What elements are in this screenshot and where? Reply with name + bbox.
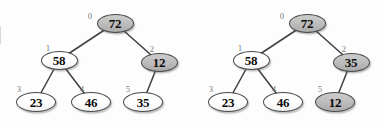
figure-canvas: 720581122233464355 720581352233464125	[0, 0, 384, 128]
tree-node-index-label-0: 0	[280, 13, 284, 21]
tree-node-index-label-3: 3	[17, 86, 21, 94]
tree-node-value: 58	[245, 53, 258, 66]
tree-node-value: 12	[153, 55, 166, 68]
tree-node-5[interactable]: 12	[315, 92, 355, 112]
tree-node-value: 46	[85, 95, 98, 108]
binary-tree-after: 720581352233464125	[192, 0, 384, 128]
tree-node-value: 23	[30, 95, 43, 108]
tree-node-value: 12	[329, 95, 342, 108]
binary-tree-before: 720581122233464355	[0, 0, 192, 128]
tree-node-index-label-4: 4	[272, 86, 276, 94]
tree-node-1[interactable]: 58	[233, 51, 270, 70]
tree-node-value: 46	[277, 95, 290, 108]
tree-node-1[interactable]: 58	[41, 51, 78, 70]
tree-node-index-label-2: 2	[150, 46, 154, 54]
tree-node-0[interactable]: 72	[97, 14, 134, 33]
tree-node-index-label-5: 5	[318, 86, 322, 94]
tree-node-index-label-1: 1	[46, 45, 50, 53]
tree-node-2[interactable]: 35	[333, 53, 370, 72]
tree-node-index-label-1: 1	[238, 45, 242, 53]
tree-node-value: 23	[222, 95, 235, 108]
tree-node-5[interactable]: 35	[123, 92, 163, 112]
tree-node-value: 72	[301, 16, 314, 29]
tree-node-value: 72	[109, 16, 122, 29]
tree-node-index-label-2: 2	[342, 46, 346, 54]
tree-node-4[interactable]: 46	[71, 92, 111, 112]
tree-node-3[interactable]: 23	[16, 92, 56, 112]
tree-node-3[interactable]: 23	[208, 92, 248, 112]
tree-node-value: 58	[53, 53, 66, 66]
tree-node-index-label-4: 4	[80, 86, 84, 94]
tree-node-index-label-3: 3	[209, 86, 213, 94]
tree-node-2[interactable]: 12	[141, 53, 178, 72]
tree-node-value: 35	[345, 55, 358, 68]
tree-node-index-label-5: 5	[126, 86, 130, 94]
tree-node-0[interactable]: 72	[289, 14, 326, 33]
tree-node-index-label-0: 0	[88, 13, 92, 21]
tree-node-value: 35	[137, 95, 150, 108]
tree-node-4[interactable]: 46	[263, 92, 303, 112]
